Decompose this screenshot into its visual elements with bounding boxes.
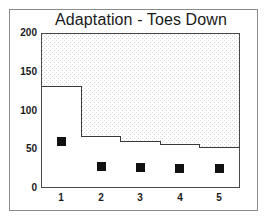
x-tick-3: 3 <box>130 192 150 204</box>
y-tick-150: 150 <box>3 67 37 77</box>
data-marker <box>57 137 66 146</box>
shaded-region-above-step <box>42 34 239 147</box>
data-marker <box>97 162 106 171</box>
data-marker <box>175 164 184 173</box>
x-tick-2: 2 <box>91 192 111 204</box>
plot-svg <box>42 34 239 187</box>
chart-title: Adaptation - Toes Down <box>41 10 241 30</box>
data-marker <box>136 163 145 172</box>
y-axis-tick-labels: 200 150 100 50 0 <box>0 0 37 220</box>
figure-container: Adaptation - Toes Down 200 150 100 50 0 <box>0 0 267 220</box>
plot-area <box>41 33 240 188</box>
data-marker <box>215 164 224 173</box>
x-tick-4: 4 <box>170 192 190 204</box>
y-tick-50: 50 <box>3 144 37 154</box>
y-tick-200: 200 <box>3 28 37 38</box>
y-tick-100: 100 <box>3 106 37 116</box>
x-tick-1: 1 <box>51 192 71 204</box>
y-tick-0: 0 <box>3 183 37 193</box>
x-axis-tick-labels: 1 2 3 4 5 <box>41 192 240 208</box>
x-tick-5: 5 <box>209 192 229 204</box>
